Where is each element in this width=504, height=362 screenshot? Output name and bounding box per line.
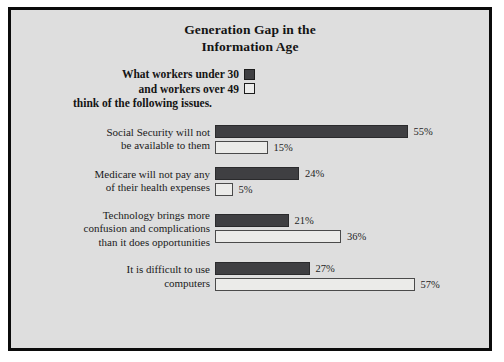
bar-dark [215,167,299,180]
category-label: Technology brings more confusion and com… [11,209,215,250]
category-label-line: Social Security will not [11,126,210,140]
bar-value-label: 57% [415,279,440,290]
legend-swatch-light-icon [244,83,255,94]
category-label-line: of their health expenses [11,181,210,195]
bar-dark [215,262,310,275]
bar-pair: 21% 36% [215,214,489,243]
legend-label-under-30: What workers under 30 [73,67,244,82]
bar-light [215,141,268,154]
bar-value-label: 5% [233,184,253,195]
legend-item-over-49: and workers over 49 [73,82,255,97]
bar-light [215,183,233,196]
legend-swatch-dark-icon [244,69,255,80]
bar-row-over-49: 57% [215,278,489,291]
bar-row-over-49: 5% [215,183,489,196]
bar-value-label: 27% [310,263,335,274]
bar-row-under-30: 21% [215,214,489,227]
category-label: Social Security will not be available to… [11,126,215,153]
bar-group: It is difficult to use computers 27% 57% [11,262,489,291]
category-label-line: confusion and complications [11,222,210,236]
chart-figure: Generation Gap in the Information Age Wh… [8,7,492,351]
legend-caption: think of the following issues. [73,96,489,111]
bar-group: Social Security will not be available to… [11,125,489,154]
bar-light [215,278,415,291]
category-label-line: It is difficult to use [11,263,210,277]
bar-dark [215,125,408,138]
category-label-line: Technology brings more [11,209,210,223]
bar-row-under-30: 27% [215,262,489,275]
chart-title-line-1: Generation Gap in the [11,21,489,38]
bar-pair: 55% 15% [215,125,489,154]
legend-item-under-30: What workers under 30 [73,67,255,82]
category-label-line: Medicare will not pay any [11,168,210,182]
bar-row-over-49: 15% [215,141,489,154]
category-label-line: than it does opportunities [11,236,210,250]
bar-value-label: 24% [299,168,324,179]
category-label: Medicare will not pay any of their healt… [11,168,215,195]
bar-row-under-30: 24% [215,167,489,180]
bar-value-label: 15% [268,142,293,153]
chart-title-line-2: Information Age [11,38,489,55]
category-label-line: be available to them [11,139,210,153]
bar-light [215,230,341,243]
bar-value-label: 55% [408,126,433,137]
bar-value-label: 21% [289,215,314,226]
category-label-line: computers [11,277,210,291]
bar-group: Technology brings more confusion and com… [11,209,489,250]
bar-row-under-30: 55% [215,125,489,138]
chart-plot-area: Social Security will not be available to… [11,125,489,292]
bar-pair: 27% 57% [215,262,489,291]
legend-label-over-49: and workers over 49 [73,82,244,97]
bar-group: Medicare will not pay any of their healt… [11,167,489,196]
chart-title: Generation Gap in the Information Age [11,10,489,55]
bar-row-over-49: 36% [215,230,489,243]
bar-value-label: 36% [341,231,366,242]
category-label: It is difficult to use computers [11,263,215,290]
bar-dark [215,214,289,227]
chart-legend: What workers under 30 and workers over 4… [11,67,489,111]
bar-pair: 24% 5% [215,167,489,196]
